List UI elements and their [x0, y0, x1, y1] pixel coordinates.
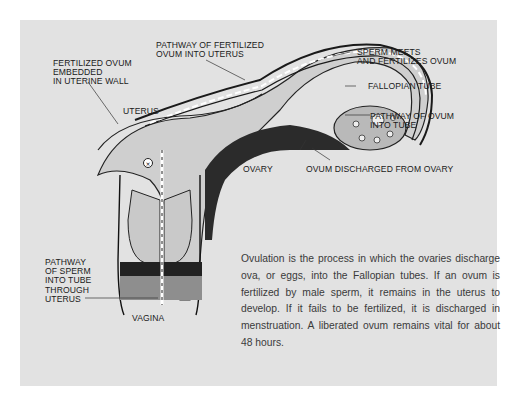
label-ovum-discharged: OVUM DISCHARGED FROM OVARY: [306, 165, 453, 174]
caption-text: Ovulation is the process in which the ov…: [241, 251, 500, 352]
label-fertilized-ovum-embedded: FERTILIZED OVUM EMBEDDED IN UTERINE WALL: [53, 59, 132, 87]
svg-text:×: ×: [146, 160, 151, 167]
label-pathway-ovum-into-tube: PATHWAY OF OVUM INTO TUBE: [370, 112, 454, 130]
label-sperm-meets-ovum: SPERM MEETS AND FERTILIZES OVUM: [357, 48, 456, 66]
label-pathway-fertilized-ovum: PATHWAY OF FERTILIZED OVUM INTO UTERUS: [156, 41, 264, 59]
label-ovary: OVARY: [243, 165, 273, 174]
label-pathway-sperm: PATHWAY OF SPERM INTO TUBE THROUGH UTERU…: [45, 258, 91, 304]
label-fallopian-tube: FALLOPIAN TUBE: [368, 82, 441, 91]
label-vagina: VAGINA: [132, 314, 164, 323]
label-uterus: UTERUS: [123, 107, 159, 116]
